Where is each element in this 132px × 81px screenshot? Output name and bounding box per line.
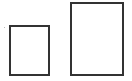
large-rectangle xyxy=(70,2,124,76)
stray-dot xyxy=(4,27,5,28)
small-rectangle xyxy=(9,25,50,76)
